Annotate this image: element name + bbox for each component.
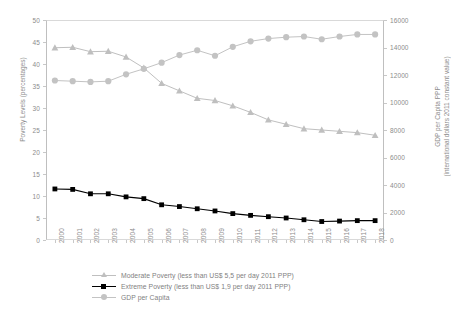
- data-point-marker: [70, 187, 75, 192]
- data-point-marker: [355, 218, 360, 223]
- y-axis-right-tick-mark: [384, 185, 387, 186]
- y-axis-left-tick-label: 35: [12, 83, 40, 90]
- data-point-marker: [159, 60, 165, 66]
- chart-legend: Moderate Poverty (less than US$ 5,5 per …: [92, 270, 294, 303]
- y-axis-left-tick-label: 0: [12, 237, 40, 244]
- data-point-marker: [87, 79, 93, 85]
- data-point-marker: [302, 217, 307, 222]
- x-axis-tick-mark: [108, 240, 109, 243]
- series-line: [55, 47, 375, 135]
- data-point-marker: [195, 206, 200, 211]
- x-axis-tick-mark: [268, 240, 269, 243]
- y-axis-right-title-line2: (international dollars 2011 constant val…: [442, 27, 451, 207]
- x-axis-tick-mark: [179, 240, 180, 243]
- legend-label-moderate-poverty: Moderate Poverty (less than US$ 5,5 per …: [121, 272, 294, 279]
- data-point-marker: [106, 191, 111, 196]
- data-point-marker: [123, 71, 129, 77]
- y-axis-right-tick-label: 8000: [390, 127, 422, 134]
- series-2: [52, 187, 377, 224]
- data-point-marker: [336, 33, 342, 39]
- data-point-marker: [124, 194, 129, 199]
- y-axis-right-tick-label: 16000: [390, 17, 422, 24]
- legend-marker-square-icon: [92, 281, 116, 292]
- data-point-marker: [354, 31, 360, 37]
- x-axis-tick-mark: [375, 240, 376, 243]
- y-axis-right-tick-label: 10000: [390, 99, 422, 106]
- data-point-marker: [283, 34, 289, 40]
- y-axis-right-tick-label: 6000: [390, 154, 422, 161]
- series-layer: [46, 20, 384, 240]
- data-point-marker: [105, 78, 111, 84]
- y-axis-right-tick-mark: [384, 213, 387, 214]
- legend-label-gdp-per-capita: GDP per Capita: [121, 294, 170, 301]
- x-axis-tick-mark: [126, 240, 127, 243]
- data-point-marker: [301, 33, 307, 39]
- y-axis-right-title: GDP per Capita PPP (international dollar…: [434, 27, 451, 207]
- y-axis-left-tick-label: 40: [12, 61, 40, 68]
- y-axis-right-tick-mark: [384, 130, 387, 131]
- data-point-marker: [230, 44, 236, 50]
- y-axis-left-tick-label: 30: [12, 105, 40, 112]
- y-axis-left-tick-label: 5: [12, 215, 40, 222]
- y-axis-right-title-line1: GDP per Capita PPP: [434, 27, 443, 207]
- data-point-marker: [52, 187, 57, 192]
- data-point-marker: [141, 196, 146, 201]
- y-axis-right-tick-mark: [384, 103, 387, 104]
- y-axis-left-tick-label: 10: [12, 193, 40, 200]
- series-line: [55, 189, 375, 222]
- data-point-marker: [70, 78, 76, 84]
- data-point-marker: [265, 35, 271, 41]
- y-axis-left-tick-label: 45: [12, 39, 40, 46]
- x-axis-tick-mark: [55, 240, 56, 243]
- y-axis-right-tick-mark: [384, 158, 387, 159]
- data-point-marker: [373, 218, 378, 223]
- data-point-marker: [159, 202, 164, 207]
- y-axis-right-tick-label: 14000: [390, 44, 422, 51]
- data-point-marker: [213, 209, 218, 214]
- data-point-marker: [247, 109, 254, 115]
- data-point-marker: [247, 38, 253, 44]
- series-3: [52, 31, 378, 85]
- data-point-marker: [52, 77, 58, 83]
- x-axis-tick-mark: [90, 240, 91, 243]
- legend-marker-triangle-icon: [92, 270, 116, 281]
- x-axis-tick-mark: [215, 240, 216, 243]
- y-axis-left-tick-label: 15: [12, 171, 40, 178]
- x-axis-tick-mark: [251, 240, 252, 243]
- data-point-marker: [266, 214, 271, 219]
- y-axis-left-title: Poverty Levels (percentages): [19, 30, 26, 170]
- legend-item-moderate-poverty[interactable]: Moderate Poverty (less than US$ 5,5 per …: [92, 270, 294, 281]
- x-axis-tick-mark: [233, 240, 234, 243]
- y-axis-left-tick-label: 20: [12, 149, 40, 156]
- data-point-marker: [248, 213, 253, 218]
- x-axis-tick-mark: [286, 240, 287, 243]
- x-axis-tick-mark: [197, 240, 198, 243]
- legend-label-extreme-poverty: Extreme Poverty (less than US$ 1,9 per d…: [121, 283, 290, 290]
- data-point-marker: [212, 53, 218, 59]
- y-axis-right-tick-label: 2000: [390, 209, 422, 216]
- x-axis-tick-mark: [73, 240, 74, 243]
- data-point-marker: [337, 219, 342, 224]
- x-axis-tick-mark: [144, 240, 145, 243]
- data-point-marker: [265, 116, 272, 122]
- data-point-marker: [372, 31, 378, 37]
- y-axis-left-tick-label: 50: [12, 17, 40, 24]
- data-point-marker: [176, 87, 183, 93]
- data-point-marker: [194, 95, 201, 101]
- data-point-marker: [141, 66, 147, 72]
- y-axis-right-tick-mark: [384, 20, 387, 21]
- x-axis-tick-mark: [322, 240, 323, 243]
- legend-item-extreme-poverty[interactable]: Extreme Poverty (less than US$ 1,9 per d…: [92, 281, 294, 292]
- legend-item-gdp-per-capita[interactable]: GDP per Capita: [92, 292, 294, 303]
- data-point-marker: [88, 191, 93, 196]
- y-axis-right-tick-mark: [384, 48, 387, 49]
- data-point-marker: [230, 211, 235, 216]
- data-point-marker: [319, 219, 324, 224]
- y-axis-left-tick-mark: [43, 240, 46, 241]
- data-point-marker: [176, 52, 182, 58]
- data-point-marker: [177, 204, 182, 209]
- y-axis-right-tick-label: 12000: [390, 72, 422, 79]
- x-axis-tick-mark: [304, 240, 305, 243]
- y-axis-left-tick-label: 25: [12, 127, 40, 134]
